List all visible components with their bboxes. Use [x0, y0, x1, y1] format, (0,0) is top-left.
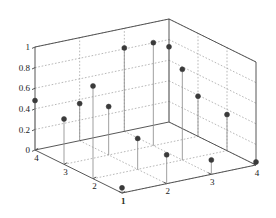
- data-point-marker[interactable]: [122, 45, 127, 50]
- x-tick-label: 3: [210, 177, 215, 187]
- data-point-marker[interactable]: [106, 104, 111, 109]
- data-point-marker[interactable]: [167, 44, 172, 49]
- y-tick-mark: [64, 163, 67, 165]
- data-point-marker[interactable]: [33, 98, 38, 103]
- data-point-marker[interactable]: [135, 136, 140, 141]
- x-tick-label: 4: [255, 168, 260, 178]
- z-tick-label: 0.6: [19, 83, 31, 93]
- y-tick-mark: [93, 177, 96, 179]
- wall-right-grid-z: [35, 40, 169, 68]
- floor-edge-front-right: [122, 165, 256, 193]
- x-tick-mark: [163, 182, 166, 184]
- y-tick-label: 4: [34, 153, 39, 163]
- wall-top-edge-left: [169, 19, 256, 62]
- z-tick-mark: [32, 150, 35, 151]
- floor-edge-back-left: [35, 150, 122, 193]
- grid-lines: [35, 19, 256, 193]
- data-point-marker[interactable]: [120, 185, 125, 190]
- data-point-marker[interactable]: [164, 152, 169, 157]
- data-point-marker[interactable]: [77, 101, 82, 106]
- x-tick-label: 2: [165, 186, 170, 196]
- floor-edge-back-right: [35, 122, 169, 150]
- z-tick-label: 0: [26, 145, 31, 155]
- data-point-marker[interactable]: [254, 159, 259, 164]
- y-tick-label: 2: [92, 181, 97, 191]
- data-point-marker[interactable]: [91, 83, 96, 88]
- z-tick-label: 0.2: [19, 125, 30, 135]
- floor-grid-y: [93, 151, 227, 179]
- floor-grid-y: [64, 136, 198, 164]
- z-tick-label: 0.8: [19, 63, 31, 73]
- data-point-marker[interactable]: [209, 157, 214, 162]
- stem3-figure: 00.20.40.60.8143211234: [0, 0, 276, 218]
- wall-right-grid-z: [35, 81, 169, 109]
- x-tick-mark: [208, 173, 211, 175]
- plot-canvas: 00.20.40.60.8143211234: [0, 0, 276, 218]
- x-tick-label: 1: [121, 196, 126, 206]
- x-tick-mark: [119, 191, 122, 193]
- wall-right-grid-z: [35, 60, 169, 88]
- y-tick-label: 3: [63, 167, 68, 177]
- data-point-marker[interactable]: [151, 40, 156, 45]
- data-point-marker[interactable]: [225, 112, 230, 117]
- z-tick-label: 1: [26, 42, 31, 52]
- wall-top-edge-right: [35, 19, 169, 47]
- wall-right-grid-z: [35, 101, 169, 129]
- z-tick-label: 0.4: [19, 104, 31, 114]
- data-point-marker[interactable]: [62, 117, 67, 122]
- data-point-marker[interactable]: [196, 94, 201, 99]
- data-point-marker[interactable]: [180, 67, 185, 72]
